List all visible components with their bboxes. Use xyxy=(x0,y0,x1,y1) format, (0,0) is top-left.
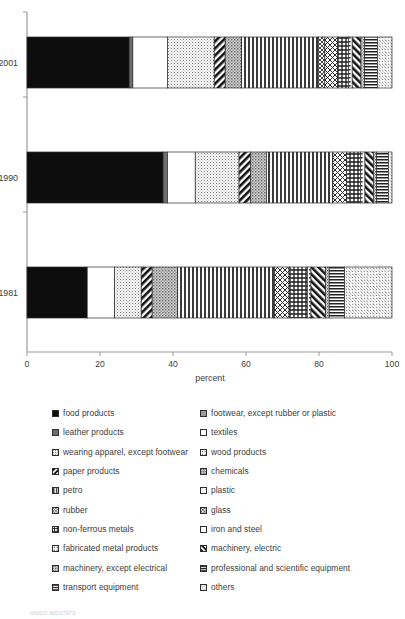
legend-swatch-paper xyxy=(52,468,59,475)
legend-item-rubber[interactable]: rubber xyxy=(0,500,195,519)
bar-segment-petro xyxy=(178,267,275,318)
legend-label: textiles xyxy=(211,428,237,437)
bar-group xyxy=(27,267,392,318)
bar-segment-machelec xyxy=(365,152,374,203)
legend-label: leather products xyxy=(63,428,124,437)
bar-segment-fabmetal xyxy=(307,267,311,318)
bar-segment-others xyxy=(345,267,392,318)
y-tick-label: 1990 xyxy=(0,173,18,183)
legend-item-paper[interactable]: paper products xyxy=(0,462,195,481)
bar-segment-nonferrous xyxy=(338,37,349,88)
y-tick-label: 1981 xyxy=(0,288,18,298)
legend-swatch-apparel xyxy=(52,449,59,456)
source-footnote: UNIDO INDSTAT3 xyxy=(30,610,75,616)
bar-segment-machelec xyxy=(352,37,361,88)
bar-segment-petro xyxy=(266,152,332,203)
legend-label: food products xyxy=(63,409,114,418)
legend-label: plastic xyxy=(211,486,235,495)
legend-label: paper products xyxy=(63,467,120,476)
legend-label: non-ferrous metals xyxy=(63,525,134,534)
legend-item-profsci[interactable]: professional and scientific equipment xyxy=(195,558,395,577)
bar-segment-apparel xyxy=(115,267,142,318)
legend-label: glass xyxy=(211,506,231,515)
legend-label: footwear, except rubber or plastic xyxy=(211,409,336,418)
legend-item-wood[interactable]: wood products xyxy=(195,443,395,462)
legend-item-petro[interactable]: petro xyxy=(0,481,195,500)
bar-segment-chemicals xyxy=(225,37,241,88)
legend-item-footwear[interactable]: footwear, except rubber or plastic xyxy=(195,404,395,423)
y-tick-label: 2001 xyxy=(0,58,18,68)
legend-item-machexcept[interactable]: machinery, except electrical xyxy=(0,558,195,577)
bar-segment-fabmetal xyxy=(361,152,365,203)
bar-segment-leather xyxy=(129,37,133,88)
legend-swatch-chemicals xyxy=(200,468,207,475)
chart-container: 020406080100 200119901981 percent food p… xyxy=(0,0,405,619)
bar-segment-paper xyxy=(239,152,251,203)
legend-swatch-ironsteel xyxy=(200,526,207,533)
bar-segment-paper xyxy=(214,37,225,88)
bar-segment-glass xyxy=(333,152,347,203)
chart-legend: food productsfootwear, except rubber or … xyxy=(0,404,405,597)
bar-segment-machelec xyxy=(311,267,326,318)
x-axis-ticks xyxy=(27,352,392,356)
legend-item-ironsteel[interactable]: iron and steel xyxy=(195,520,395,539)
bar-segment-food xyxy=(27,267,87,318)
bar-group xyxy=(27,37,392,88)
legend-item-plastic[interactable]: plastic xyxy=(195,481,395,500)
legend-label: others xyxy=(211,583,235,592)
legend-label: fabricated metal products xyxy=(63,544,158,553)
legend-item-nonferrous[interactable]: non-ferrous metals xyxy=(0,520,195,539)
bar-segment-textiles xyxy=(133,37,168,88)
bar-segment-nonferrous xyxy=(347,152,361,203)
legend-label: machinery, electric xyxy=(211,544,281,553)
bar-segment-rubber xyxy=(318,37,325,88)
legend-item-leather[interactable]: leather products xyxy=(0,423,195,442)
bar-segment-food xyxy=(27,37,129,88)
legend-item-glass[interactable]: glass xyxy=(195,500,395,519)
x-axis-title: percent xyxy=(195,373,225,383)
x-tick-labels: 020406080100 xyxy=(25,359,400,369)
legend-item-textiles[interactable]: textiles xyxy=(195,423,395,442)
bar-segment-glass xyxy=(325,37,338,88)
legend-swatch-rubber xyxy=(52,507,59,514)
bar-segment-leather xyxy=(163,152,167,203)
legend-swatch-plastic xyxy=(200,487,207,494)
legend-item-transport[interactable]: transport equipment xyxy=(0,578,195,597)
legend-label: transport equipment xyxy=(63,583,138,592)
bar-segment-apparel xyxy=(195,152,239,203)
bar-segment-others xyxy=(388,152,392,203)
x-tick-label: 40 xyxy=(168,359,178,369)
bar-segment-petro xyxy=(242,37,319,88)
bar-segment-machexcept xyxy=(374,152,377,203)
bar-segment-chemicals xyxy=(152,267,178,318)
legend-item-food[interactable]: food products xyxy=(0,404,195,423)
y-tick-labels: 200119901981 xyxy=(0,58,18,298)
legend-item-chemicals[interactable]: chemicals xyxy=(195,462,395,481)
bar-segment-machexcept xyxy=(326,267,330,318)
legend-swatch-textiles xyxy=(200,429,207,436)
legend-swatch-glass xyxy=(200,507,207,514)
legend-label: chemicals xyxy=(211,467,249,476)
legend-swatch-others xyxy=(200,584,207,591)
legend-item-apparel[interactable]: wearing apparel, except footwear xyxy=(0,443,195,462)
bar-segment-glass xyxy=(274,267,289,318)
legend-label: wearing apparel, except footwear xyxy=(63,448,188,457)
bar-segment-textiles xyxy=(87,267,114,318)
legend-swatch-transport xyxy=(52,584,59,591)
legend-swatch-nonferrous xyxy=(52,526,59,533)
legend-label: professional and scientific equipment xyxy=(211,564,350,573)
legend-label: petro xyxy=(63,486,82,495)
bar-segment-profsci xyxy=(329,267,344,318)
bar-segment-others xyxy=(377,37,392,88)
legend-swatch-wood xyxy=(200,449,207,456)
bar-segment-textiles xyxy=(168,152,196,203)
legend-label: wood products xyxy=(211,448,266,457)
legend-item-machelec[interactable]: machinery, electric xyxy=(195,539,395,558)
bar-segment-paper xyxy=(141,267,152,318)
bar-segment-nonferrous xyxy=(289,267,307,318)
legend-item-others[interactable]: others xyxy=(195,578,395,597)
legend-item-fabmetal[interactable]: fabricated metal products xyxy=(0,539,195,558)
stacked-bar-chart: 020406080100 200119901981 percent xyxy=(0,0,405,405)
bar-segment-profsci xyxy=(377,152,389,203)
bar-segment-apparel xyxy=(168,37,215,88)
